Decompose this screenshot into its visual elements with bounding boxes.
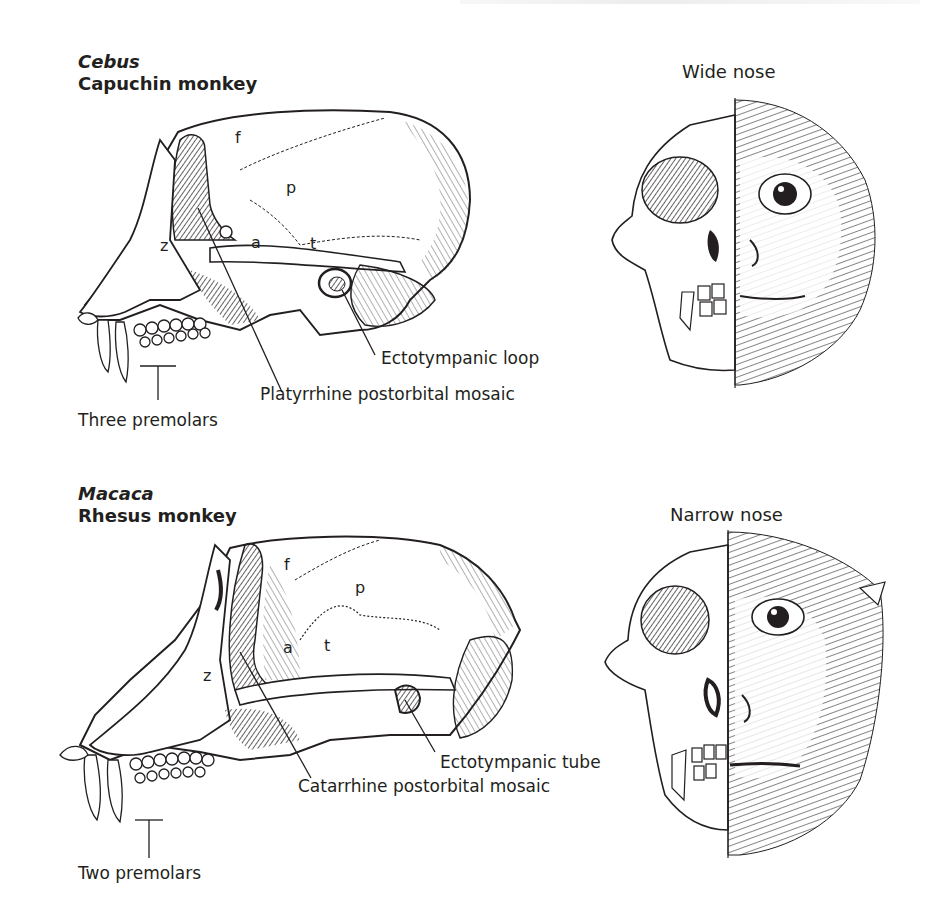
macaca-face-half-skull-illustration bbox=[0, 0, 925, 913]
